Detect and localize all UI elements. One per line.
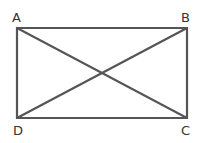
rectangle-diagram <box>0 0 198 143</box>
vertex-label-d: D <box>13 124 23 137</box>
vertex-label-b: B <box>181 11 190 24</box>
vertex-label-c: C <box>181 124 190 137</box>
vertex-label-a: A <box>12 11 21 24</box>
